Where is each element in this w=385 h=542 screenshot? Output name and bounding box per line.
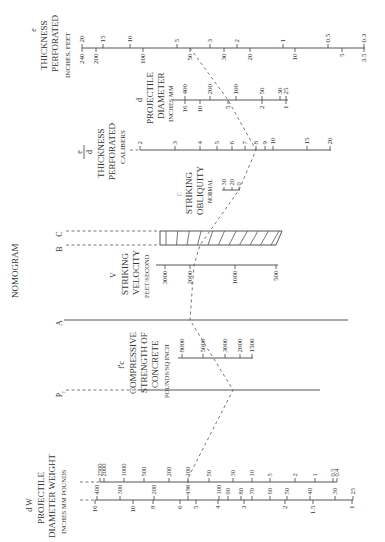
v-units: FEET/SECOND xyxy=(143,254,150,298)
tick-label: 10 xyxy=(248,470,255,477)
tick-label: 2 xyxy=(136,141,144,145)
tick-label: 1 xyxy=(279,39,287,43)
a-label: A xyxy=(55,320,64,326)
tick-label: 200 xyxy=(92,53,100,64)
ed-title-1: THICKNESS xyxy=(96,128,106,178)
d-title-1: PROJECTILE xyxy=(145,71,155,124)
tick-label: 20 xyxy=(228,179,235,186)
tick-label: 30 xyxy=(220,53,228,61)
ed-ticks: 23456789101520 xyxy=(136,137,334,150)
tick-label: 15 xyxy=(99,35,107,43)
tick-label: 2000 xyxy=(100,464,107,477)
tick-label: 5 xyxy=(173,39,181,43)
tick-label: 6 xyxy=(228,141,236,145)
tick-label: 80 xyxy=(237,488,244,495)
tick-label: 500 xyxy=(140,467,147,477)
obliquity-title-1: STRIKING xyxy=(184,172,194,214)
tick-label: 60 xyxy=(266,488,273,495)
tick-label: 200 xyxy=(165,467,172,477)
tick-label: 200 xyxy=(206,84,214,95)
tick-label: 5000 xyxy=(199,338,207,353)
tick-label: 4 xyxy=(196,141,204,145)
d-units: INCHES MM xyxy=(167,85,174,122)
tick-label: 6 xyxy=(176,505,184,509)
c-label: C xyxy=(55,231,64,236)
tick-label: 100 xyxy=(232,84,240,95)
tick-label: 400 xyxy=(93,485,100,495)
dw-units: INCHES MM POUNDS xyxy=(60,469,67,534)
v-symbol: V xyxy=(109,272,118,278)
tick-label: 1 xyxy=(311,473,318,476)
tick-label: 2 xyxy=(233,39,241,43)
e-inch-ticks: 2402001005030201053.5 xyxy=(78,48,368,64)
tick-label: 2 xyxy=(291,473,298,476)
tick-label: 20 xyxy=(246,53,254,61)
tick-label: 70 xyxy=(248,488,255,495)
tick-label: 7 xyxy=(241,141,249,145)
tick-label: 2 xyxy=(281,505,289,509)
tick-label: 50 xyxy=(258,87,266,95)
nomogram-title: NOMOGRAM xyxy=(10,243,20,298)
tick-label: 5 xyxy=(192,505,200,509)
tick-label: 20 xyxy=(78,35,86,43)
tick-label: 400 xyxy=(181,84,189,95)
tick-label: 20 xyxy=(326,137,334,145)
example-index-line xyxy=(188,48,256,496)
tick-label: 16 xyxy=(91,505,99,513)
tick-label: 1 xyxy=(282,105,290,109)
tick-label: 5 xyxy=(338,53,346,57)
tick-label: 1000 xyxy=(231,270,239,285)
dw-title-2: DIAMETER WEIGHT xyxy=(47,453,57,538)
v-title-1: STRIKING xyxy=(120,253,130,295)
tick-label: 3.5 xyxy=(360,53,368,62)
fc-ticks: 80005000300020001500 xyxy=(178,338,256,358)
tick-label: 2000 xyxy=(236,338,244,353)
dw-mm-ticks: 4003002001501009080706050403025 xyxy=(93,485,356,500)
fc-title-1: COMPRESSIVE xyxy=(128,331,138,394)
tick-label: 240 xyxy=(78,53,86,64)
e-title-1: THICKNESS xyxy=(39,20,49,70)
tick-label: 30 xyxy=(220,179,227,186)
w-ticks: 2500200010005002001005030105210.50.4 xyxy=(96,464,340,483)
tick-label: 4 xyxy=(214,505,222,509)
tick-label: 50 xyxy=(283,488,290,495)
d-mm-ticks: 400200100503025 xyxy=(181,84,290,101)
dw-inch-ticks: 16108654321.51 xyxy=(91,500,356,514)
tick-label: 300 xyxy=(116,485,123,495)
tick-label: 8 xyxy=(149,505,157,509)
e-title-2: PERFORATED xyxy=(50,14,60,72)
fc-title-2: STRENGTH OF xyxy=(139,332,149,393)
tick-label: 1000 xyxy=(120,464,127,477)
tick-label: 5 xyxy=(224,105,232,109)
tick-label: 50 xyxy=(205,470,212,477)
tick-label: 100 xyxy=(139,53,147,64)
tick-label: 100 xyxy=(215,485,222,495)
tick-label: 10 xyxy=(291,53,299,61)
tick-label: 3000 xyxy=(161,270,169,285)
hatched-band xyxy=(160,231,282,245)
dw-symbol: d W xyxy=(25,498,34,512)
d-title-2: DIAMETER xyxy=(156,73,166,120)
tick-label: 1.5 xyxy=(309,505,317,514)
tick-label: 0.3 xyxy=(360,33,368,42)
tick-label: 100 xyxy=(184,467,191,477)
e-symbol: e xyxy=(29,28,38,32)
tick-label: 50 xyxy=(186,53,194,61)
tick-label: 10 xyxy=(196,105,204,113)
obliquity-units: NORMAL xyxy=(207,179,213,203)
v-ticks: 300020001000500 xyxy=(161,265,280,285)
tick-label: 40 xyxy=(306,488,313,495)
tick-label: 0.5 xyxy=(324,33,332,42)
fc-title-3: CONCRETE xyxy=(150,340,160,388)
d-inch-ticks: 1610521 xyxy=(181,100,290,113)
tick-label: 3000 xyxy=(221,338,229,353)
ed-num: e xyxy=(75,150,84,154)
fc-symbol: f'c xyxy=(116,361,126,369)
scale-a: A xyxy=(55,320,348,326)
ed-units: CALIBERS xyxy=(119,130,127,164)
pr-label: Pr xyxy=(55,391,66,397)
ed-title-2: PERFORATED xyxy=(107,122,117,180)
tick-label: 8 xyxy=(252,141,260,145)
tick-label: 30 xyxy=(331,488,338,495)
obliquity-title-2: OBLIQUITY xyxy=(195,166,205,215)
